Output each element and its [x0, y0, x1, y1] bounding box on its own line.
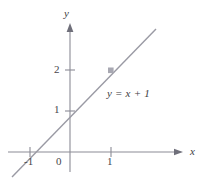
x-tick-label-1: 1	[107, 156, 113, 167]
x-tick-label-minus-1: -1	[24, 156, 33, 167]
y-tick-label-2: 2	[54, 64, 60, 75]
data-point-marker	[108, 68, 114, 74]
origin-label: 0	[56, 156, 62, 167]
y-tick-label-1: 1	[54, 104, 60, 115]
graph-figure: y x 2 1 -1 0 1 y = x + 1	[0, 0, 202, 178]
x-axis-label: x	[190, 146, 195, 157]
y-axis	[67, 23, 74, 172]
y-axis-label: y	[64, 8, 69, 19]
plot-canvas	[0, 0, 202, 178]
equation-annotation: y = x + 1	[107, 88, 150, 99]
line-series-y-equals-x-plus-1	[12, 29, 156, 177]
